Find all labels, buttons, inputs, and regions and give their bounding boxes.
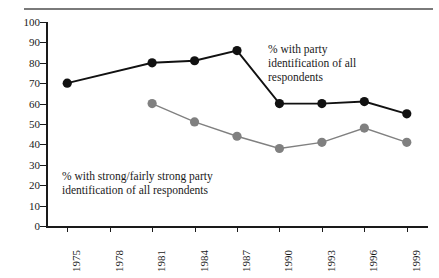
x-axis-tick xyxy=(407,226,408,232)
y-axis-tick-label: 90 xyxy=(29,37,40,48)
y-axis-tick xyxy=(40,42,46,43)
y-axis-tick xyxy=(40,83,46,84)
data-point-marker xyxy=(232,132,241,141)
x-axis-tick-label: 1975 xyxy=(71,250,82,272)
x-axis-tick-label: 1999 xyxy=(411,250,422,272)
data-point-marker xyxy=(275,99,284,108)
y-axis-tick xyxy=(40,206,46,207)
y-axis-tick-label: 30 xyxy=(29,160,40,171)
chart-figure: 0102030405060708090100 19751978198119841… xyxy=(0,0,439,278)
annotation-party-identification: % with party identification of all respo… xyxy=(268,42,356,84)
data-point-marker xyxy=(148,58,157,67)
y-axis-tick xyxy=(40,185,46,186)
data-point-marker xyxy=(232,46,241,55)
y-axis-tick-label: 100 xyxy=(24,17,41,28)
y-axis-tick xyxy=(40,144,46,145)
title-divider xyxy=(24,8,433,10)
data-point-marker xyxy=(275,144,284,153)
x-axis-tick-label: 1984 xyxy=(199,250,210,272)
y-axis-tick-label: 50 xyxy=(29,119,40,130)
x-axis-tick-label: 1987 xyxy=(241,250,252,272)
y-axis-tick-label: 80 xyxy=(29,58,40,69)
x-axis-tick xyxy=(322,226,323,232)
series-layer xyxy=(46,22,428,228)
data-point-marker xyxy=(63,79,72,88)
x-axis-tick xyxy=(110,226,111,232)
data-point-marker xyxy=(402,109,411,118)
x-axis-tick xyxy=(195,226,196,232)
data-point-marker xyxy=(190,117,199,126)
annotation-strong-identification: % with strong/fairly strong party identi… xyxy=(62,169,213,197)
x-axis-tick xyxy=(279,226,280,232)
data-point-marker xyxy=(360,123,369,132)
y-axis-tick-label: 70 xyxy=(29,78,40,89)
data-point-marker xyxy=(317,99,326,108)
x-axis-tick xyxy=(237,226,238,232)
x-axis-tick xyxy=(152,226,153,232)
y-axis-tick xyxy=(40,165,46,166)
plot-area xyxy=(46,22,428,228)
y-axis-tick xyxy=(40,22,46,23)
y-axis-tick-label: 20 xyxy=(29,180,40,191)
x-axis-tick xyxy=(364,226,365,232)
data-point-marker xyxy=(190,56,199,65)
y-axis-tick xyxy=(40,104,46,105)
data-point-marker xyxy=(148,99,157,108)
y-axis-labels: 0102030405060708090100 xyxy=(0,22,40,228)
y-axis-tick xyxy=(40,124,46,125)
y-axis-tick-label: 10 xyxy=(29,201,40,212)
series-line xyxy=(152,104,407,149)
y-axis-tick xyxy=(40,63,46,64)
x-axis-tick-label: 1993 xyxy=(326,250,337,272)
x-axis-tick xyxy=(67,226,68,232)
data-point-marker xyxy=(317,138,326,147)
y-axis-tick-label: 60 xyxy=(29,99,40,110)
y-axis-tick xyxy=(40,226,46,227)
x-axis-tick-label: 1978 xyxy=(114,250,125,272)
x-axis-tick-label: 1990 xyxy=(283,250,294,272)
y-axis-tick-label: 40 xyxy=(29,139,40,150)
data-point-marker xyxy=(402,138,411,147)
data-point-marker xyxy=(360,97,369,106)
x-axis-tick-label: 1981 xyxy=(156,250,167,272)
x-axis-labels: 197519781981198419871990199319961999 xyxy=(46,232,428,278)
x-axis-tick-label: 1996 xyxy=(368,250,379,272)
